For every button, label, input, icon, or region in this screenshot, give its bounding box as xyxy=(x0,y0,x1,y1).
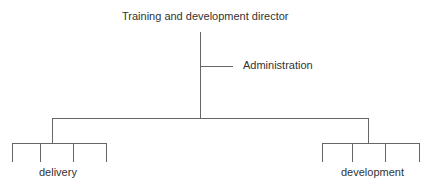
main-horizontal-line xyxy=(52,118,369,119)
development-node: development xyxy=(341,166,404,178)
right-leaf-1 xyxy=(322,143,323,162)
director-node: Training and development director xyxy=(122,10,289,22)
administration-node: Administration xyxy=(243,59,313,71)
right-leaf-4 xyxy=(419,143,420,162)
left-leaf-3 xyxy=(73,143,74,162)
left-sub-bar xyxy=(12,143,107,144)
left-drop-line xyxy=(52,118,53,144)
right-drop-line xyxy=(368,118,369,144)
trunk-line xyxy=(200,32,201,118)
left-leaf-1 xyxy=(12,143,13,162)
delivery-node: delivery xyxy=(39,166,77,178)
right-sub-bar xyxy=(322,143,420,144)
left-leaf-2 xyxy=(40,143,41,162)
right-leaf-2 xyxy=(352,143,353,162)
left-leaf-4 xyxy=(106,143,107,162)
right-leaf-3 xyxy=(385,143,386,162)
admin-branch-line xyxy=(200,66,233,67)
